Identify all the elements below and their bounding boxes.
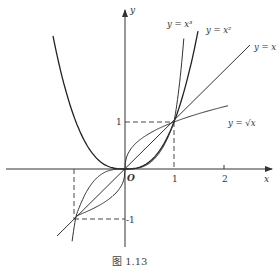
y-tick-label-neg1: -1	[126, 215, 135, 225]
x-tick-label-2: 2	[222, 174, 228, 184]
x-axis-label: x	[264, 174, 269, 184]
label-y-equals-x: y = x	[253, 42, 276, 52]
origin-label: O	[127, 173, 135, 183]
y-tick-label-1: 1	[116, 117, 122, 127]
curve-y-equals-x	[57, 45, 250, 236]
label-y-sqrt-x: y = √x	[227, 118, 256, 128]
x-tick-label-1: 1	[172, 174, 178, 184]
figure-caption: 图 1.13	[112, 256, 147, 267]
label-y-x-squared: y = x²	[205, 25, 232, 35]
y-axis-label: y	[129, 5, 136, 15]
function-graph-figure: y = x³ y = x² y = x y = √x y x O 1 2 1 -…	[0, 0, 277, 271]
label-y-x-cubed: y = x³	[166, 19, 193, 29]
